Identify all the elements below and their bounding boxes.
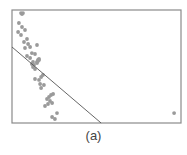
data-point [21,11,25,15]
data-point [38,82,42,86]
data-point [19,33,23,37]
data-point [55,111,59,115]
data-point [33,77,37,81]
data-point [17,21,21,25]
data-point [37,78,41,82]
data-point [35,61,39,65]
data-point [35,43,39,47]
data-point [50,101,54,105]
data-point [33,52,37,56]
plot-frame [12,10,181,123]
figure: (a) [0,0,187,155]
data-point [23,28,27,32]
data-point [23,46,27,50]
data-point [172,111,176,115]
data-point [28,56,32,60]
data-point [16,30,20,34]
data-point [51,92,55,96]
data-point [22,40,26,44]
data-point [28,45,32,49]
data-point [20,25,24,29]
data-point [53,117,57,121]
data-point [37,57,41,61]
data-point [46,102,50,106]
figure-caption: (a) [0,128,187,143]
data-point [42,83,46,87]
data-point [25,37,29,41]
data-point [39,86,43,90]
